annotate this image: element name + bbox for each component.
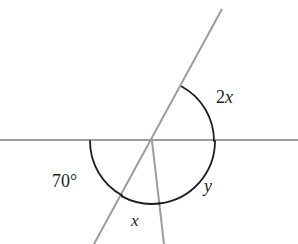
- near-vertical-ray: [152, 141, 164, 244]
- angle-label-2x-text: 2: [216, 87, 225, 107]
- arc-2x: [182, 87, 214, 142]
- angle-label-y: y: [204, 177, 212, 195]
- angle-label-2x: 2x: [216, 88, 233, 106]
- angle-label-70: 70°: [52, 172, 77, 190]
- arc-70-degrees: [90, 141, 122, 196]
- angle-label-x: x: [131, 212, 139, 229]
- angle-label-2x-variable: x: [225, 87, 233, 107]
- steep-transversal-line: [94, 9, 222, 244]
- geometry-diagram: 2x 70° y x: [0, 0, 298, 244]
- arc-x: [122, 196, 159, 204]
- diagram-canvas: [0, 0, 298, 244]
